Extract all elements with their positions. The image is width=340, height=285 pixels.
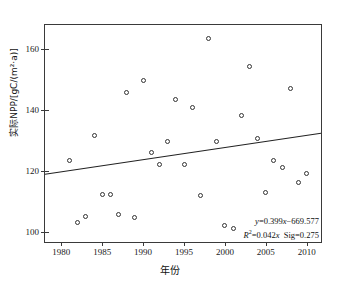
- data-point: [157, 162, 162, 167]
- data-point: [173, 97, 178, 102]
- y-axis-tick-inner: [45, 171, 49, 172]
- equation-coef: =0.399: [259, 216, 283, 226]
- data-point: [222, 223, 227, 228]
- data-point: [141, 78, 146, 83]
- r-squared-value: =0.042: [252, 230, 276, 240]
- equation-intercept: −669.577: [287, 216, 319, 226]
- x-axis-tick: [184, 242, 185, 246]
- data-point: [165, 139, 170, 144]
- regression-stats-line: R2=0.042x Sig=0.275: [244, 228, 319, 241]
- y-axis-title: 实际NPP/[gC/(m²·a)]: [7, 18, 20, 168]
- x-axis-tick-label: 2005: [257, 247, 275, 257]
- data-point: [198, 193, 203, 198]
- x-axis-tick: [225, 242, 226, 246]
- x-axis-tick: [266, 242, 267, 246]
- data-point: [132, 215, 137, 220]
- data-point: [92, 133, 97, 138]
- data-point: [83, 214, 88, 219]
- data-point: [182, 162, 187, 167]
- y-axis-tick-inner: [45, 49, 49, 50]
- data-point: [255, 136, 260, 141]
- regression-annotation: y=0.399x−669.577 R2=0.042x Sig=0.275: [244, 216, 319, 241]
- x-axis-tick-label: 1980: [52, 247, 70, 257]
- data-point: [149, 150, 154, 155]
- x-axis-title: 年份: [0, 262, 340, 277]
- data-point: [116, 212, 121, 217]
- data-point: [206, 36, 211, 41]
- data-point: [214, 139, 219, 144]
- x-axis-tick: [143, 242, 144, 246]
- significance-value: Sig=0.275: [284, 230, 319, 240]
- data-point: [231, 226, 236, 231]
- data-point: [190, 105, 195, 110]
- x-axis-tick-label: 1995: [175, 247, 193, 257]
- x-axis-tick-label: 1985: [93, 247, 111, 257]
- x-axis-tick-label: 2010: [298, 247, 316, 257]
- data-point: [288, 86, 293, 91]
- y-axis-tick-label: 100: [26, 227, 40, 237]
- data-point: [108, 192, 113, 197]
- data-point: [263, 190, 268, 195]
- data-point: [100, 192, 105, 197]
- plot-area: 100120140160 198019851990199520002005201…: [44, 24, 322, 243]
- data-point: [304, 171, 309, 176]
- y-axis-tick-label: 160: [26, 44, 40, 54]
- y-axis-tick-inner: [45, 110, 49, 111]
- y-axis-tick-label: 140: [26, 105, 40, 115]
- data-point: [124, 90, 129, 95]
- y-axis-tick-inner: [45, 232, 49, 233]
- data-point: [280, 165, 285, 170]
- x-axis-tick: [61, 242, 62, 246]
- x-axis-tick-label: 1990: [134, 247, 152, 257]
- regression-equation-line: y=0.399x−669.577: [244, 216, 319, 227]
- data-point: [247, 64, 252, 69]
- data-point: [75, 220, 80, 225]
- data-point: [67, 158, 72, 163]
- data-point: [296, 180, 301, 185]
- x-axis-tick-label: 2000: [216, 247, 234, 257]
- data-points-layer: [45, 25, 321, 242]
- x-axis-tick: [307, 242, 308, 246]
- data-point: [239, 113, 244, 118]
- scatter-chart-figure: 100120140160 198019851990199520002005201…: [0, 0, 340, 285]
- y-axis-tick-label: 120: [26, 166, 40, 176]
- x-axis-tick: [102, 242, 103, 246]
- data-point: [271, 158, 276, 163]
